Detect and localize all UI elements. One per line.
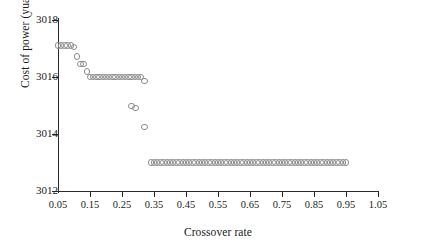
data-point	[80, 61, 86, 67]
x-axis-tick	[378, 191, 379, 197]
x-axis-tick	[282, 191, 283, 197]
x-axis-tick	[186, 191, 187, 197]
data-point	[141, 124, 147, 130]
x-axis-tick	[90, 191, 91, 197]
y-axis-tick-label: 3018	[12, 13, 58, 25]
x-axis-tick	[346, 191, 347, 197]
data-point	[74, 53, 80, 59]
x-axis-tick	[122, 191, 123, 197]
data-point	[71, 44, 77, 50]
y-axis-tick-label: 3014	[12, 127, 58, 139]
x-axis-tick-label: 1.05	[358, 199, 398, 210]
y-axis-tick-group: 3012301430163018	[0, 0, 58, 248]
x-axis-title: Crossover rate	[58, 226, 378, 238]
chart-figure: Cost of power (yuan) 3012301430163018 Cr…	[0, 0, 432, 248]
y-axis-tick-label: 3016	[12, 70, 58, 82]
plot-area	[58, 20, 378, 191]
data-point	[141, 78, 147, 84]
data-point	[132, 105, 138, 111]
y-axis-tick-label: 3012	[12, 184, 58, 196]
data-point	[343, 159, 349, 165]
x-axis-tick	[218, 191, 219, 197]
x-axis-tick	[154, 191, 155, 197]
x-axis-tick	[314, 191, 315, 197]
x-axis-tick	[250, 191, 251, 197]
